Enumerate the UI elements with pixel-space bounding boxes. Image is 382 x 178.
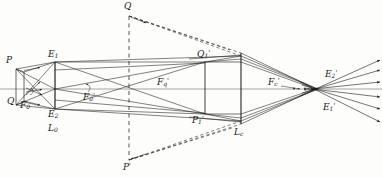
focal-point-f0-prime-leader	[86, 84, 90, 92]
label-exit-pupil-edge-e1-prime: E1'	[323, 103, 335, 112]
construction-ray-arrow-q	[131, 17, 146, 23]
label-collective-lens-lc: Lc	[234, 128, 243, 137]
label-back-focal-point-f0-prime: F0'	[83, 93, 95, 102]
label-image-point-p1-prime: P1'	[192, 116, 204, 125]
label-field-focal-point-fq: Fq'	[157, 78, 169, 87]
label-object-point-q: Q	[7, 97, 14, 106]
ray-diagram-canvas	[0, 0, 382, 178]
label-aperture-edge-e1: E1	[48, 50, 58, 59]
label-front-focal-point-f0: F0	[20, 101, 30, 110]
ray-bundle-image-to-collective	[189, 55, 241, 122]
label-exit-pupil-edge-e2-prime: E2'	[325, 70, 337, 79]
label-far-field-point-q: Q	[124, 2, 131, 11]
label-aperture-edge-e2: E2	[48, 110, 58, 119]
label-back-focal-point-fc-prime: Fc'	[268, 78, 280, 87]
construction-rays-from-q	[129, 16, 241, 56]
label-image-point-q1-prime: Q1'	[197, 50, 210, 59]
label-object-point-p: P	[6, 56, 12, 65]
ray-bundle-objective-to-image	[55, 62, 205, 114]
label-far-field-point-p-prime: P'	[123, 163, 131, 172]
optical-diagram-figure: P Q F0 E1 E2 L0 F0' Q P' Fq' Q1' P1' Lc …	[0, 0, 382, 178]
construction-ray-arrow-p-prime	[131, 154, 146, 159]
label-objective-lens-l0: L0	[48, 124, 58, 133]
field-box	[205, 62, 241, 114]
